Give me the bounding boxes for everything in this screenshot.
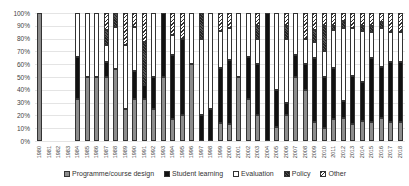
bar-1994 — [170, 13, 175, 141]
x-tick-label: 2011 — [330, 146, 336, 164]
bar-segment — [151, 13, 156, 77]
bar-segment — [132, 99, 137, 141]
bar-segment — [255, 115, 260, 141]
legend-label: Other — [328, 170, 346, 177]
bar-2003 — [255, 13, 260, 141]
bar-segment — [104, 77, 109, 141]
bar-segment — [104, 13, 109, 30]
bar-segment — [360, 26, 365, 31]
bar-segment — [360, 31, 365, 82]
bar-segment — [170, 35, 175, 55]
bar-segment — [180, 13, 185, 39]
x-tick-label: 2013 — [349, 146, 355, 164]
bar-segment — [293, 55, 298, 77]
bar-segment — [85, 13, 90, 77]
bar-2001 — [236, 13, 241, 141]
bar-segment — [331, 26, 336, 30]
x-tick-label: 2012 — [340, 146, 346, 164]
legend: Programme/course design Student learning… — [64, 170, 346, 177]
bar-segment — [369, 122, 374, 141]
bar-segment — [255, 64, 260, 115]
legend-label: Evaluation — [241, 170, 274, 177]
bar-segment — [369, 58, 374, 122]
bar-segment — [331, 119, 336, 141]
bar-segment — [369, 13, 374, 26]
bar-segment — [331, 30, 336, 68]
bar-segment — [75, 99, 80, 141]
bar-2015 — [369, 13, 374, 141]
swatch-student-learning — [164, 171, 170, 177]
bar-2017 — [388, 13, 393, 141]
legend-item-evaluation: Evaluation — [233, 170, 274, 177]
bar-segment — [322, 13, 327, 26]
legend-item-programme: Programme/course design — [64, 170, 154, 177]
bar-segment — [113, 13, 118, 27]
bar-segment — [142, 85, 147, 99]
y-tick-label: 100% — [0, 10, 30, 17]
bar-1998 — [208, 13, 213, 141]
x-tick-label: 2017 — [387, 146, 393, 164]
y-tick-label: 20% — [0, 112, 30, 119]
bar-segment — [360, 13, 365, 26]
y-tick-label: 90% — [0, 22, 30, 29]
bar-1986 — [94, 13, 99, 141]
bar-segment — [94, 77, 99, 141]
x-tick-label: 1996 — [188, 146, 194, 164]
bar-segment — [85, 77, 90, 141]
bar-1993 — [161, 13, 166, 141]
y-tick-label: 0% — [0, 138, 30, 145]
bar-segment — [398, 32, 403, 61]
bar-segment — [227, 124, 232, 141]
bar-segment — [341, 118, 346, 141]
legend-label: Student learning — [172, 170, 223, 177]
x-tick-label: 2009 — [311, 146, 317, 164]
bar-segment — [379, 118, 384, 141]
x-tick-label: 2010 — [321, 146, 327, 164]
x-tick-label: 1983 — [65, 146, 71, 164]
bar-segment — [123, 13, 128, 45]
bar-segment — [312, 30, 317, 43]
bar-1988 — [113, 13, 118, 141]
bar-segment — [255, 39, 260, 65]
y-tick-label: 70% — [0, 48, 30, 55]
bar-segment — [180, 39, 185, 116]
bar-segment — [132, 27, 137, 71]
bar-segment — [388, 62, 393, 122]
x-tick-label: 1991 — [141, 146, 147, 164]
x-tick-label: 2015 — [368, 146, 374, 164]
bar-1995 — [180, 13, 185, 141]
bar-segment — [350, 28, 355, 75]
bar-segment — [379, 28, 384, 66]
x-tick-label: 2014 — [359, 146, 365, 164]
bar-segment — [322, 26, 327, 52]
bar-1991 — [142, 13, 147, 141]
x-tick-label: 1984 — [74, 146, 80, 164]
bar-segment — [104, 62, 109, 77]
x-tick-label: 2000 — [226, 146, 232, 164]
bar-1982 — [56, 13, 61, 141]
x-tick-label: 1992 — [150, 146, 156, 164]
bar-segment — [246, 13, 251, 57]
bar-segment — [189, 13, 194, 64]
swatch-programme — [64, 171, 70, 177]
bar-segment — [284, 103, 289, 116]
bar-segment — [341, 101, 346, 118]
gridline — [35, 141, 405, 142]
bar-1990 — [132, 13, 137, 141]
bar-segment — [75, 57, 80, 99]
bar-segment — [113, 27, 118, 69]
bar-segment — [274, 13, 279, 90]
bar-segment — [132, 13, 137, 27]
x-tick-label: 1994 — [169, 146, 175, 164]
bar-segment — [104, 30, 109, 45]
x-tick-label: 1986 — [93, 146, 99, 164]
bar-segment — [208, 13, 213, 109]
x-tick-label: 1993 — [160, 146, 166, 164]
bar-1984 — [75, 13, 80, 141]
x-tick-label: 2018 — [397, 146, 403, 164]
bar-2007 — [293, 13, 298, 141]
bar-segment — [312, 122, 317, 141]
bar-segment — [388, 122, 393, 141]
bar-segment — [265, 13, 270, 141]
bar-segment — [218, 123, 223, 141]
